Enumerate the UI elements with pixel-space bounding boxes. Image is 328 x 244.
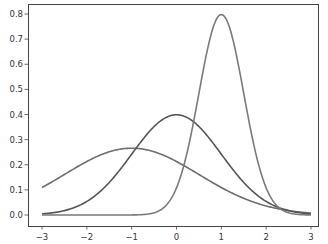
y-tick-label: 0.0	[9, 210, 23, 220]
y-tick-label: 0.7	[9, 34, 23, 44]
x-tick-label: 1	[219, 232, 224, 242]
y-tick-label: 0.1	[9, 185, 23, 195]
y-tick-label: 0.4	[9, 110, 23, 120]
x-tick-label: 0	[174, 232, 179, 242]
x-tick-label: −2	[81, 232, 94, 242]
y-tick-label: 0.5	[9, 84, 23, 94]
x-tick-label: 2	[263, 232, 268, 242]
x-tick-label: −3	[36, 232, 49, 242]
y-tick-label: 0.6	[9, 59, 23, 69]
x-tick-label: 3	[308, 232, 313, 242]
y-tick-label: 0.8	[9, 9, 23, 19]
y-tick-label: 0.3	[9, 135, 23, 145]
x-axis-ticks: −3−2−10123	[36, 226, 314, 242]
y-axis-ticks: 0.00.10.20.30.40.50.60.70.8	[9, 9, 28, 220]
curves	[42, 15, 311, 215]
chart: −3−2−10123 0.00.10.20.30.40.50.60.70.8	[0, 0, 328, 244]
x-tick-label: −1	[125, 232, 138, 242]
y-tick-label: 0.2	[9, 160, 23, 170]
